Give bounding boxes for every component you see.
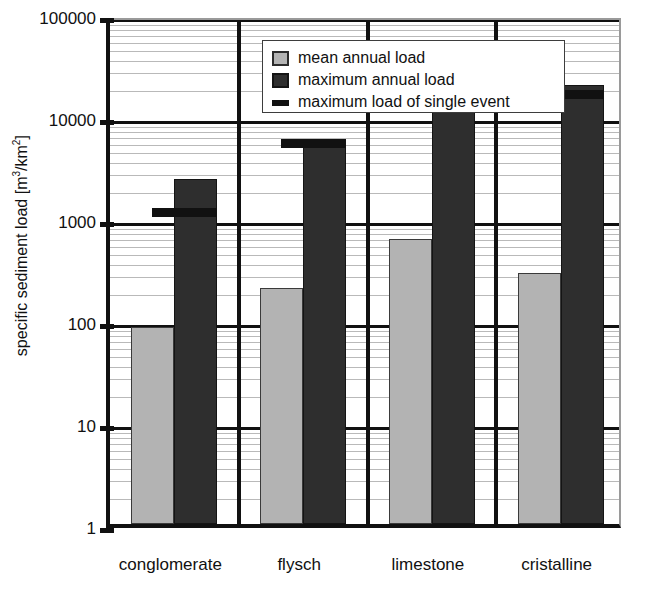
y-axis-tick	[100, 324, 114, 329]
marker-maximum-load-single-event	[152, 208, 217, 217]
grid-line-major	[110, 121, 619, 124]
chart-figure: 100000 10000 1000 100 10 1 specific sedi…	[0, 0, 649, 599]
legend-label-mean: mean annual load	[298, 49, 425, 67]
y-axis-title-suffix: ]	[13, 135, 30, 139]
bar-mean-annual-load	[518, 273, 561, 524]
bar-mean-annual-load	[131, 327, 174, 524]
grid-line-minor	[110, 127, 619, 128]
y-axis-title-sup-3: 3	[11, 171, 22, 177]
y-axis-title-sup-2: 2	[11, 140, 22, 146]
bar-maximum-annual-load	[303, 140, 346, 524]
y-axis-tick	[100, 18, 114, 23]
x-axis-category-label: cristalline	[477, 555, 637, 575]
grid-line-minor	[110, 36, 619, 37]
grid-line-minor	[110, 30, 619, 31]
y-axis-title: specific sediment load [m3/km2]	[11, 11, 30, 481]
y-tick-label: 1	[4, 519, 96, 539]
grid-line-minor	[110, 25, 619, 26]
legend-item-mean: mean annual load	[272, 48, 555, 68]
grid-line-minor	[110, 132, 619, 133]
grid-line-minor	[110, 138, 619, 139]
y-axis-title-mid: /km	[13, 145, 30, 171]
grid-line-major	[110, 20, 619, 22]
marker-maximum-load-single-event	[281, 139, 346, 148]
bar-maximum-annual-load	[561, 85, 604, 524]
grid-line-minor	[110, 145, 619, 146]
legend: mean annual load maximum annual load max…	[262, 40, 565, 113]
bar-maximum-annual-load	[432, 82, 475, 524]
legend-swatch-max-icon	[272, 73, 289, 88]
group-separator	[237, 20, 241, 524]
legend-item-max: maximum annual load	[272, 70, 555, 90]
y-axis-tick	[100, 426, 114, 431]
bar-mean-annual-load	[389, 239, 432, 524]
grid-line-minor	[110, 163, 619, 164]
bar-maximum-annual-load	[174, 179, 217, 524]
y-axis-tick	[100, 528, 114, 533]
y-axis-title-prefix: specific sediment load [m	[13, 177, 30, 357]
y-axis-tick	[100, 222, 114, 227]
y-axis-tick	[100, 120, 114, 125]
legend-item-event: maximum load of single event	[272, 92, 555, 112]
legend-label-max: maximum annual load	[298, 71, 455, 89]
legend-swatch-event-icon	[272, 95, 289, 110]
bar-mean-annual-load	[260, 288, 303, 524]
legend-swatch-mean-icon	[272, 51, 289, 66]
legend-label-event: maximum load of single event	[298, 93, 510, 111]
plot-area: mean annual load maximum annual load max…	[106, 18, 621, 528]
grid-line-minor	[110, 153, 619, 154]
grid-line-minor	[110, 175, 619, 176]
